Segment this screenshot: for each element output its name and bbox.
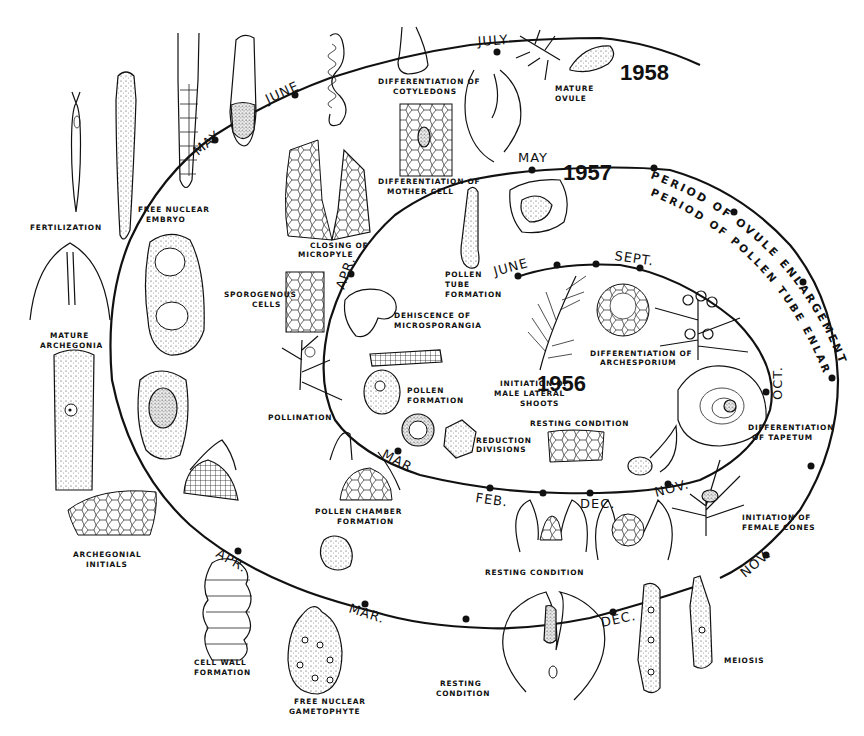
month-dots [212, 49, 836, 623]
pollen-tube-illustration [461, 187, 479, 268]
label-pollen-chamber-1: POLLEN CHAMBER [315, 507, 402, 516]
label-initiation-male-2: MALE LATERAL [494, 389, 565, 398]
pollen-chamber-illustration [330, 432, 400, 500]
label-pollen-chamber-2: FORMATION [337, 517, 394, 526]
label-dehiscence-1: DEHISCENCE OF [394, 311, 471, 320]
label-sporogenous-cells-2: CELLS [252, 300, 281, 309]
label-mature-archegonia-2: ARCHEGONIA [40, 341, 103, 350]
free-nuclear-gametophyte-illustration [288, 607, 342, 694]
archesporium-illustration [597, 284, 649, 336]
label-differentiation-archesporium-2: ARCHESPORIUM [600, 358, 677, 367]
label-mature-ovule-2: OVULE [555, 94, 587, 103]
coiled-suspensor-illustration [328, 34, 346, 126]
label-differentiation-cotyledons-2: COTYLEDONS [393, 87, 457, 96]
year-1957: 1957 [563, 160, 612, 185]
label-resting-condition-inner: RESTING CONDITION [530, 419, 629, 428]
label-dehiscence-2: MICROSPORANGIA [394, 321, 482, 330]
label-initiation-female-1: INITIATION OF [742, 513, 811, 522]
female-cone-shoot-illustration [672, 460, 744, 536]
label-resting-condition-outer-2: CONDITION [436, 689, 490, 698]
fertilization-illustration [72, 92, 81, 212]
young-male-cone-illustration [628, 426, 677, 475]
month-labels: JUNE SEPT. OCT. NOV. DEC. FEB. MAR. APR.… [190, 32, 785, 630]
label-closing-micropyle-1: CLOSING OF [310, 241, 368, 250]
male-shoot-illustration [528, 276, 586, 370]
ovule-embryo-sac-illustration [138, 371, 188, 459]
label-differentiation-archesporium-1: DIFFERENTIATION OF [590, 349, 692, 358]
reduction-divisions-illustration [444, 420, 476, 458]
label-cell-wall-2: FORMATION [194, 668, 251, 677]
microsporangia-dehiscence-illustration [344, 289, 396, 337]
label-fertilization: FERTILIZATION [30, 223, 102, 232]
label-pollen-tube-3: FORMATION [445, 290, 502, 299]
label-cell-wall-1: CELL WALL [194, 658, 247, 667]
resting-tissue-illustration [548, 430, 604, 462]
cell-wall-formation-illustration [203, 559, 252, 660]
label-free-nuclear-embryo-1: FREE NUCLEAR [138, 205, 210, 214]
label-differentiation-tapetum-2: OF TAPETUM [752, 433, 813, 442]
month-outer-dec: DEC. [600, 608, 638, 630]
label-initiation-male-1: INITIATION OF [500, 379, 569, 388]
cotyledons-illustration [398, 27, 428, 74]
label-closing-micropyle-2: MICROPYLE [298, 250, 353, 259]
sporogenous-cells-illustration [286, 272, 324, 332]
gametophyte-early-illustration [145, 234, 204, 355]
label-mature-archegonia-1: MATURE [50, 331, 89, 340]
label-initiation-female-2: FEMALE CONES [742, 523, 815, 532]
year-1958: 1958 [620, 60, 669, 85]
label-reduction-divisions-2: DIVISIONS [476, 445, 526, 454]
label-archegonial-initials-2: INITIALS [86, 560, 128, 569]
free-nuclear-embryo-illustration [116, 72, 136, 239]
month-outer-june: JUNE [262, 78, 301, 107]
label-free-nuclear-gametophyte-1: FREE NUCLEAR [294, 697, 366, 706]
label-reduction-divisions-1: REDUCTION [476, 436, 532, 445]
label-sporogenous-cells-1: SPOROGENOUS [224, 290, 297, 299]
label-differentiation-tapetum-1: DIFFERENTIATION [748, 423, 834, 432]
resting-ovule-outer-illustration [503, 592, 605, 700]
label-differentiation-mother-cell-1: DIFFERENTIATION OF [378, 177, 480, 186]
month-outer-apr: APR. [214, 546, 250, 576]
label-resting-condition-middle: RESTING CONDITION [485, 568, 584, 577]
label-mature-ovule-1: MATURE [555, 84, 594, 93]
mature-archegonia-illustration [30, 243, 110, 320]
label-pollen-formation-2: FORMATION [407, 396, 464, 405]
month-inner-oct: OCT. [770, 366, 785, 400]
archegonium-illustration [54, 350, 94, 490]
month-inner-apr: APR. [333, 254, 359, 291]
label-meiosis: MEIOSIS [724, 656, 764, 665]
label-pollen-tube-1: POLLEN [445, 270, 482, 279]
label-free-nuclear-embryo-2: EMBRYO [146, 215, 186, 224]
month-outer-july: JULY [476, 32, 509, 49]
archegonial-initials-illustration [68, 491, 156, 535]
label-initiation-male-3: SHOOTS [520, 399, 559, 408]
pollination-illustration [282, 336, 342, 400]
label-resting-condition-outer-1: RESTING [440, 679, 482, 688]
month-mid-may: MAY [518, 150, 548, 165]
month-inner-nov: NOV. [653, 476, 691, 500]
proembryo-illustration [230, 35, 256, 146]
label-differentiation-mother-cell-2: MOTHER CELL [387, 187, 454, 196]
label-differentiation-cotyledons-1: DIFFERENTIATION OF [378, 77, 480, 86]
month-inner-feb: FEB. [475, 490, 510, 509]
nucellus-crosshatch-illustration [184, 440, 238, 500]
label-free-nuclear-gametophyte-2: GAMETOPHYTE [289, 707, 360, 716]
nucellus-pollen-illustration [510, 180, 567, 233]
month-outer-nov: NOV. [737, 546, 774, 580]
closing-micropyle-illustration [285, 140, 370, 240]
life-cycle-spiral-diagram: JUNE SEPT. OCT. NOV. DEC. FEB. MAR. APR.… [0, 0, 864, 736]
pollen-grain-illustration [320, 536, 352, 570]
label-pollination: POLLINATION [268, 413, 332, 422]
spiral-lines [110, 38, 838, 628]
label-archegonial-initials-1: ARCHEGONIAL [73, 550, 142, 559]
label-pollen-tube-2: TUBE [445, 280, 470, 289]
label-pollen-formation-1: POLLEN [407, 386, 444, 395]
